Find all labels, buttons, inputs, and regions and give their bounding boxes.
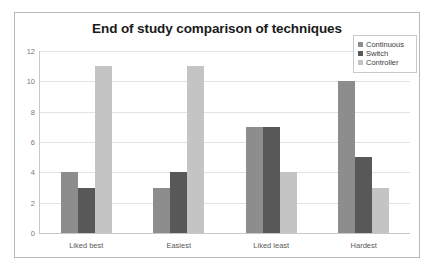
x-axis-tick-label: Liked best (69, 241, 103, 250)
y-axis-tick-label: 4 (31, 168, 35, 177)
bar-group: Easiest (153, 51, 204, 233)
y-axis-tick-label: 0 (31, 229, 35, 238)
y-axis-tick-label: 2 (31, 198, 35, 207)
bars-layer: Liked bestEasiestLiked leastHardest (40, 51, 410, 233)
legend-swatch-icon (358, 51, 363, 56)
bar (78, 188, 95, 234)
legend-item-label: Continuous (366, 41, 404, 49)
bar (263, 127, 280, 233)
bar (280, 172, 297, 233)
chart-legend: ContinuousSwitchController (353, 35, 417, 73)
x-axis-tick-label: Easiest (166, 241, 191, 250)
bar-group: Liked best (61, 51, 112, 233)
x-axis-tick-label: Hardest (351, 241, 377, 250)
bar (355, 157, 372, 233)
bar (61, 172, 78, 233)
bar-group: Liked least (246, 51, 297, 233)
bar-group: Hardest (338, 51, 389, 233)
y-axis-tick-label: 6 (31, 138, 35, 147)
bar (338, 81, 355, 233)
chart-title: End of study comparison of techniques (15, 21, 419, 36)
legend-item[interactable]: Switch (358, 50, 412, 58)
bar (187, 66, 204, 233)
chart-container: End of study comparison of techniques 02… (14, 12, 420, 258)
y-axis-tick-label: 12 (27, 47, 35, 56)
legend-item-label: Controller (366, 59, 399, 67)
x-axis-tick-label: Liked least (253, 241, 289, 250)
bar (95, 66, 112, 233)
legend-swatch-icon (358, 42, 363, 47)
legend-swatch-icon (358, 60, 363, 65)
bar (153, 188, 170, 234)
legend-item[interactable]: Continuous (358, 41, 412, 49)
legend-item-label: Switch (366, 50, 388, 58)
bar (246, 127, 263, 233)
y-axis-tick-label: 8 (31, 107, 35, 116)
bar (372, 188, 389, 234)
plot-area: 024681012 Liked bestEasiestLiked leastHa… (39, 51, 410, 234)
bar (170, 172, 187, 233)
y-axis-tick-label: 10 (27, 77, 35, 86)
legend-item[interactable]: Controller (358, 59, 412, 67)
